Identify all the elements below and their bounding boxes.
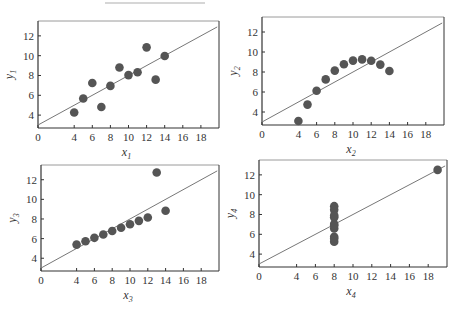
data-point <box>160 52 169 61</box>
x-tick-label: 16 <box>177 131 189 143</box>
data-point <box>106 82 115 91</box>
y-tick-label: 12 <box>26 174 37 186</box>
data-point <box>70 108 79 117</box>
scatter-panel-4: 046810121416184681012x4y4 <box>223 160 447 300</box>
x-axis-title: x4 <box>345 284 355 300</box>
x-tick-label: 10 <box>348 270 360 282</box>
x-tick-label: 4 <box>71 131 77 143</box>
data-point <box>340 60 349 69</box>
x-tick-label: 18 <box>195 131 207 143</box>
x-tick-label: 12 <box>142 274 153 286</box>
data-point <box>367 56 376 65</box>
scatter-panel-2: 046810121416184681012x2y2 <box>226 17 444 158</box>
y-tick-label: 4 <box>29 109 35 121</box>
data-point <box>135 217 144 226</box>
x-tick-label: 12 <box>366 128 377 140</box>
x-tick-label: 18 <box>420 128 432 140</box>
data-point <box>90 234 99 243</box>
x-tick-label: 6 <box>92 274 98 286</box>
x-tick-label: 8 <box>332 128 338 140</box>
y-tick-label: 8 <box>250 208 256 220</box>
y-tick-label: 8 <box>29 69 35 81</box>
data-point <box>303 100 312 109</box>
y-tick-label: 6 <box>29 89 35 101</box>
x-axis-title: x1 <box>121 145 131 161</box>
x-axis-title: x3 <box>122 288 132 304</box>
x-tick-label: 16 <box>404 270 416 282</box>
y-tick-label: 6 <box>250 228 256 240</box>
data-point <box>321 75 330 84</box>
y-tick-label: 10 <box>23 50 35 62</box>
x-tick-label: 4 <box>296 128 302 140</box>
y-tick-label: 10 <box>247 46 259 58</box>
x-tick-label: 16 <box>178 274 190 286</box>
x-tick-label: 4 <box>74 274 80 286</box>
data-point <box>433 166 442 175</box>
x-axis-title: x2 <box>345 142 355 158</box>
x-tick-label: 12 <box>141 131 152 143</box>
data-point <box>126 220 135 229</box>
data-point <box>151 75 160 84</box>
x-tick-label: 8 <box>108 131 114 143</box>
scatter-panel-1: 046810121416184681012x1y1 <box>2 21 219 161</box>
y-tick-label: 8 <box>32 213 38 225</box>
data-point <box>133 68 142 77</box>
data-point <box>99 230 108 239</box>
x-tick-label: 10 <box>125 274 137 286</box>
x-tick-label: 6 <box>314 128 320 140</box>
x-tick-label: 10 <box>123 131 135 143</box>
x-tick-label: 8 <box>109 274 115 286</box>
data-point <box>385 67 394 76</box>
data-point <box>142 43 151 52</box>
x-tick-label: 0 <box>35 131 41 143</box>
x-tick-label: 18 <box>423 270 435 282</box>
x-tick-label: 4 <box>294 270 300 282</box>
data-point <box>349 56 358 65</box>
data-point <box>294 117 303 126</box>
data-point <box>117 223 126 232</box>
y-tick-label: 4 <box>253 106 259 118</box>
y-axis-title: y1 <box>2 70 18 80</box>
data-point <box>108 227 117 236</box>
data-point <box>81 237 90 246</box>
y-tick-label: 8 <box>253 66 259 78</box>
x-tick-label: 18 <box>196 274 208 286</box>
y-tick-label: 12 <box>23 30 34 42</box>
data-point <box>79 94 88 103</box>
y-tick-label: 6 <box>32 233 38 245</box>
y-tick-label: 6 <box>253 86 259 98</box>
data-point <box>144 213 153 222</box>
data-point <box>330 221 339 230</box>
data-point <box>330 234 339 243</box>
x-tick-label: 6 <box>90 131 96 143</box>
data-point <box>161 206 170 215</box>
data-point <box>330 211 339 220</box>
y-axis-title: y4 <box>223 209 239 219</box>
regression-line <box>41 171 217 268</box>
x-tick-label: 14 <box>384 128 396 140</box>
y-tick-label: 10 <box>26 193 38 205</box>
scatter-panel-3: 046810121416184681012x3y3 <box>5 165 219 304</box>
x-tick-label: 0 <box>256 270 262 282</box>
y-tick-label: 10 <box>244 189 256 201</box>
data-point <box>124 71 133 80</box>
data-point <box>358 55 367 64</box>
y-tick-label: 12 <box>247 26 258 38</box>
data-point <box>72 240 81 249</box>
x-tick-label: 0 <box>38 274 44 286</box>
x-tick-label: 8 <box>331 270 337 282</box>
y-tick-label: 12 <box>244 169 255 181</box>
x-tick-label: 16 <box>402 128 414 140</box>
x-tick-label: 10 <box>348 128 360 140</box>
regression-line <box>262 23 442 122</box>
data-point <box>115 63 124 72</box>
x-tick-label: 0 <box>259 128 265 140</box>
data-point <box>97 103 106 112</box>
x-tick-label: 14 <box>160 274 172 286</box>
regression-line <box>259 166 445 264</box>
data-point <box>331 66 340 75</box>
x-tick-label: 12 <box>366 270 377 282</box>
y-axis-title: y2 <box>226 66 242 76</box>
y-tick-label: 4 <box>250 248 256 260</box>
anscombe-quartet-figure: 046810121416184681012x1y1 04681012141618… <box>0 0 458 315</box>
